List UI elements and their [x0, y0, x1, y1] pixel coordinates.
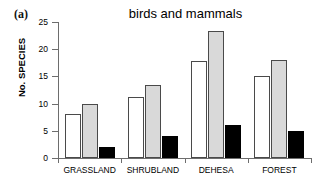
bar-gray	[208, 31, 224, 158]
bar-black	[225, 125, 241, 158]
bar-group	[248, 22, 311, 158]
bar-white	[191, 61, 207, 158]
x-category-label: FOREST	[248, 166, 311, 175]
x-tick-mark	[121, 158, 122, 163]
y-tick-label: 5	[28, 127, 48, 136]
y-tick-label: 15	[28, 72, 48, 81]
y-tick-label: 25	[28, 18, 48, 27]
bar-group	[185, 22, 248, 158]
bar-gray	[82, 104, 98, 158]
bar-white	[65, 114, 81, 158]
bar-white	[128, 97, 144, 158]
x-tick-mark	[58, 158, 59, 163]
x-tick-mark	[311, 158, 312, 163]
bar-gray	[145, 85, 161, 158]
bar-black	[288, 131, 304, 158]
bar-white	[254, 76, 270, 158]
x-category-label: DEHESA	[185, 166, 248, 175]
x-tick-mark	[185, 158, 186, 163]
x-category-label: GRASSLAND	[58, 166, 121, 175]
bar-black	[162, 136, 178, 158]
chart-title: birds and mammals	[56, 6, 315, 21]
bar-group	[121, 22, 184, 158]
y-tick-label: 20	[28, 45, 48, 54]
x-category-label: SHRUBLAND	[121, 166, 184, 175]
x-tick-mark	[248, 158, 249, 163]
panel-label: (a)	[14, 7, 28, 22]
figure-panel-a: (a) birds and mammals No. SPECIES 051015…	[0, 0, 315, 184]
y-tick-label: 10	[28, 100, 48, 109]
plot-area	[58, 22, 311, 158]
bar-black	[99, 147, 115, 158]
bar-group	[58, 22, 121, 158]
bar-gray	[271, 60, 287, 158]
y-axis-title: No. SPECIES	[16, 23, 27, 113]
y-tick-label: 0	[28, 154, 48, 163]
